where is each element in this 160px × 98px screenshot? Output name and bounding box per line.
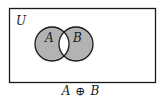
set-a-label: A xyxy=(44,31,54,45)
caption-operator-icon: ⊕ xyxy=(75,84,85,98)
universe-label: U xyxy=(16,14,27,28)
venn-diagram: U A B A ⊕ B xyxy=(0,0,160,98)
caption-left: A xyxy=(61,84,71,98)
set-b-label: B xyxy=(72,31,82,45)
caption-right: B xyxy=(90,84,100,98)
